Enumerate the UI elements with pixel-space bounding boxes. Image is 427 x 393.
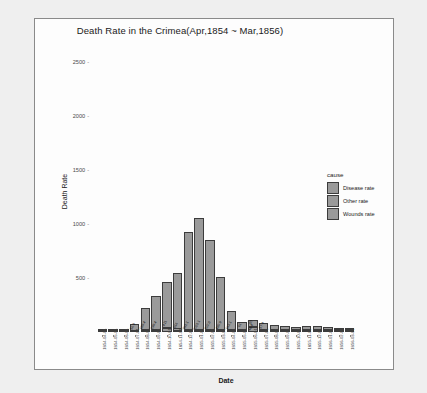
bar-column <box>119 51 130 332</box>
bar-column <box>97 51 108 332</box>
bar-column <box>108 51 119 332</box>
legend-swatch <box>327 208 339 220</box>
bar-column <box>301 51 312 332</box>
bar-column: 5048.4 <box>248 51 259 332</box>
bar-segment-disease[interactable]: 891.1 <box>184 232 193 328</box>
bar-column <box>269 51 280 332</box>
y-axis-tick-label: 2500- <box>73 59 89 65</box>
bar-segment-disease[interactable]: 516 <box>173 273 182 329</box>
legend-item-label: Disease rate <box>343 185 374 191</box>
x-axis-tick-label: 1855-01-01 <box>199 328 204 349</box>
bar-column: 411 <box>162 51 173 332</box>
stacked-bar[interactable]: 411 <box>162 282 171 332</box>
bar-column: 61 <box>237 51 248 332</box>
y-axis-ticks: 500-1000-1500-2000-2500- <box>35 51 95 332</box>
bar-column: 480.9 <box>215 51 226 332</box>
x-axis-tick-label: 1855-12-01 <box>317 328 322 349</box>
bar-column: 516 <box>172 51 183 332</box>
bar-column: 822.8 <box>205 51 216 332</box>
stacked-bar[interactable]: 822.8 <box>205 240 214 332</box>
y-axis-tick-label: 1000- <box>73 221 89 227</box>
legend-item[interactable]: Wounds rate <box>327 207 417 220</box>
x-axis-tick-label: 1856-01-01 <box>328 328 333 349</box>
x-axis-tick-label: 1854-10-01 <box>167 328 172 349</box>
x-axis-tick-label: 1854-04-01 <box>102 328 107 349</box>
chart-panel: Death Rate in the Crimea(Apr,1854 ~ Mar,… <box>34 18 394 370</box>
bar-segment-disease[interactable]: 822.8 <box>205 240 214 329</box>
plot-area: 56.9189.4299.4411516891.11023.1822.8480.… <box>97 51 355 332</box>
x-axis-tick-label: 1854-05-01 <box>113 328 118 349</box>
x-axis-tick-label: 1855-02-01 <box>210 328 215 349</box>
bar-column: 56.9 <box>129 51 140 332</box>
bar-segment-disease[interactable]: 1023.1 <box>194 218 203 329</box>
legend-swatch <box>327 195 339 207</box>
x-axis-tick-label: 1855-03-01 <box>221 328 226 349</box>
y-axis-tick-label: 500- <box>76 275 89 281</box>
bar-column: 299.4 <box>151 51 162 332</box>
x-axis-tick-label: 1854-11-01 <box>178 328 183 349</box>
stacked-bar[interactable]: 480.9 <box>216 277 225 332</box>
x-axis-tick-label: 1854-08-01 <box>145 328 150 349</box>
x-axis-tick-label: 1855-04-01 <box>231 328 236 349</box>
x-axis-title: Date <box>97 377 355 384</box>
bar-column: 891.1 <box>183 51 194 332</box>
x-axis-tick-label: 1854-07-01 <box>135 328 140 349</box>
y-axis-tick-label: 1500- <box>73 167 89 173</box>
y-axis-tick-label: 2000- <box>73 113 89 119</box>
x-axis-tick-label: 1855-10-01 <box>296 328 301 349</box>
bar-segment-disease[interactable]: 189.4 <box>141 308 150 328</box>
bar-column <box>312 51 323 332</box>
x-axis-tick-label: 1855-05-01 <box>242 328 247 349</box>
x-axis-tick-label: 1856-03-01 <box>350 328 355 349</box>
bar-column <box>291 51 302 332</box>
bar-segment-disease[interactable]: 299.4 <box>151 296 160 328</box>
bar-column: 163.1 <box>226 51 237 332</box>
x-axis-tick-label: 1855-08-01 <box>274 328 279 349</box>
legend-swatch <box>327 182 339 194</box>
bar-column: 1023.1 <box>194 51 205 332</box>
x-axis-tick-label: 1855-09-01 <box>285 328 290 349</box>
stacked-bar[interactable]: 516 <box>173 273 182 332</box>
bar-column: 57.4 <box>258 51 269 332</box>
x-axis-tick-label: 1856-02-01 <box>339 328 344 349</box>
stacked-bar[interactable]: 891.1 <box>184 232 193 332</box>
x-axis-tick-label: 1854-09-01 <box>156 328 161 349</box>
bar-segment-disease[interactable]: 411 <box>162 282 171 326</box>
stacked-bar[interactable]: 1023.1 <box>194 218 203 332</box>
x-axis-tick-label: 1855-07-01 <box>264 328 269 349</box>
bar-column: 189.4 <box>140 51 151 332</box>
legend: cause Disease rateOther rateWounds rate <box>327 171 417 220</box>
bar-column <box>280 51 291 332</box>
legend-item-label: Other rate <box>343 198 368 204</box>
bar-segment-disease[interactable]: 163.1 <box>227 311 236 329</box>
legend-item[interactable]: Disease rate <box>327 181 417 194</box>
legend-title: cause <box>327 171 417 178</box>
bar-series-group: 56.9189.4299.4411516891.11023.1822.8480.… <box>97 51 355 332</box>
legend-item[interactable]: Other rate <box>327 194 417 207</box>
x-axis-tick-label: 1855-06-01 <box>253 328 258 349</box>
legend-item-label: Wounds rate <box>343 211 375 217</box>
chart-screenshot: Death Rate in the Crimea(Apr,1854 ~ Mar,… <box>0 0 427 393</box>
legend-items: Disease rateOther rateWounds rate <box>327 181 417 220</box>
stacked-bar[interactable]: 299.4 <box>151 296 160 332</box>
bar-segment-disease[interactable]: 480.9 <box>216 277 225 329</box>
x-axis-tick-label: 1854-06-01 <box>124 328 129 349</box>
chart-title: Death Rate in the Crimea(Apr,1854 ~ Mar,… <box>35 25 325 36</box>
x-axis-tick-label: 1855-11-01 <box>307 328 312 349</box>
x-axis-tick-label: 1854-12-01 <box>188 328 193 349</box>
